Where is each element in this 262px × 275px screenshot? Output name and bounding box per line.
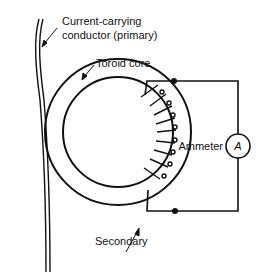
bottom-terminal-dot [172,208,178,214]
core-label: Toroid core [96,57,150,69]
primary-conductor [36,19,50,272]
secondary-winding [141,85,177,179]
primary-label-line2: conductor (primary) [62,29,157,41]
ammeter-symbol: A [233,140,241,152]
current-transformer-diagram: A Ammeter Current-carrying conductor (pr… [0,0,262,275]
ammeter-label: Ammeter [178,140,223,152]
primary-label-line1: Current-carrying [62,15,141,27]
ammeter: A [226,134,250,158]
top-terminal-dot [171,78,177,84]
secondary-label: Secondary [95,235,148,247]
